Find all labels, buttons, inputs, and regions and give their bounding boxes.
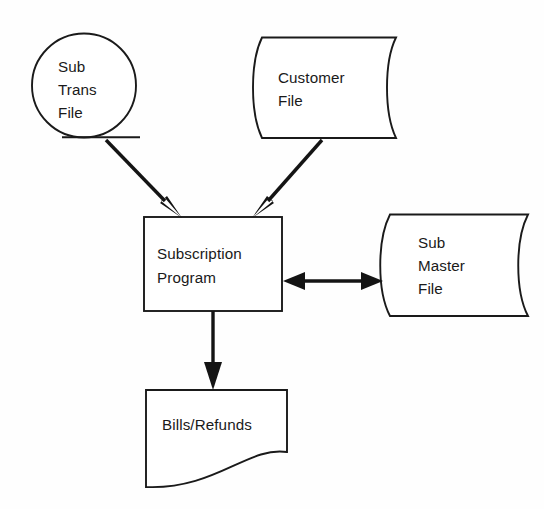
- sub-master-file-label-line1: Sub: [418, 234, 445, 251]
- connector-sub-trans-to-program: [106, 140, 182, 218]
- connector-customer-shaft: [268, 140, 322, 201]
- sub-trans-file-label-line2: Trans: [58, 81, 97, 98]
- node-sub-master-file[interactable]: Sub Master File: [380, 215, 528, 317]
- node-bills-refunds[interactable]: Bills/Refunds: [146, 390, 287, 487]
- system-flowchart-svg: Sub Trans File Customer File Subscriptio…: [0, 0, 544, 509]
- subscription-program-label-line2: Program: [157, 269, 216, 286]
- node-subscription-program[interactable]: Subscription Program: [144, 217, 282, 311]
- connector-sub-master-arrowhead-left: [283, 272, 305, 290]
- sub-master-file-label-line2: Master: [418, 257, 465, 274]
- bills-refunds-label: Bills/Refunds: [162, 416, 252, 433]
- customer-file-tape-shape: [253, 38, 396, 139]
- connector-customer-arrowhead: [252, 196, 274, 218]
- connector-customer-to-program: [252, 140, 322, 218]
- subscription-program-label-line1: Subscription: [157, 245, 242, 262]
- sub-trans-file-label-line1: Sub: [58, 58, 85, 75]
- customer-file-label-line2: File: [278, 92, 303, 109]
- sub-master-file-label-line3: File: [418, 280, 443, 297]
- flowchart-canvas: Sub Trans File Customer File Subscriptio…: [0, 0, 544, 509]
- subscription-program-rect: [144, 217, 282, 311]
- customer-file-label-line1: Customer: [278, 69, 345, 86]
- node-customer-file[interactable]: Customer File: [253, 38, 396, 139]
- node-sub-trans-file[interactable]: Sub Trans File: [32, 34, 140, 138]
- connector-sub-trans-shaft: [106, 140, 165, 201]
- sub-trans-file-label-line3: File: [58, 104, 83, 121]
- connector-sub-trans-arrowhead: [160, 196, 182, 218]
- connector-bills-arrowhead: [204, 362, 222, 390]
- connector-program-to-bills: [204, 311, 222, 390]
- connector-program-to-sub-master: [283, 272, 383, 290]
- bills-refunds-document-shape: [146, 390, 287, 487]
